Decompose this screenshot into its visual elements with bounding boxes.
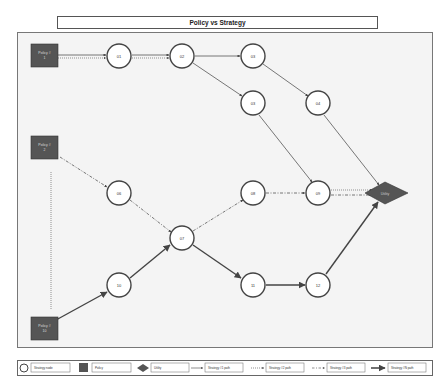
svg-text:12: 12 [316, 283, 321, 288]
legend [17, 360, 433, 376]
svg-text:02: 02 [180, 54, 185, 59]
svg-text:09: 09 [316, 191, 321, 196]
node-04: 04 [306, 91, 330, 115]
node-10: 10 [107, 273, 131, 297]
node-06: 06 [107, 181, 131, 205]
svg-text:Policy #: Policy # [38, 51, 50, 55]
svg-text:01: 01 [117, 54, 122, 59]
svg-text:2: 2 [44, 148, 46, 152]
svg-text:10: 10 [43, 329, 47, 333]
node-02: 02 [170, 44, 194, 68]
node-05: 03 [241, 91, 265, 115]
node-08: 08 [241, 181, 265, 205]
svg-text:03: 03 [251, 54, 256, 59]
diagram-graph: Policy # 1 Policy # 2 Policy # 10 01 02 … [0, 0, 446, 391]
policy-1: Policy # 1 [31, 44, 58, 67]
node-12: 12 [306, 273, 330, 297]
strategy-n-path [56, 202, 378, 320]
svg-text:06: 06 [117, 191, 122, 196]
node-01: 01 [107, 44, 131, 68]
strategy-nodes: 01 02 03 03 04 06 07 08 09 10 11 12 [107, 44, 330, 297]
policy-2: Policy # 2 [31, 136, 58, 159]
node-07: 07 [170, 226, 194, 250]
policy-10: Policy # 10 [31, 317, 58, 340]
svg-text:Utility: Utility [381, 192, 390, 196]
utility-node: Utility [365, 182, 408, 204]
strategy-1-path [58, 55, 379, 185]
node-11: 11 [241, 273, 265, 297]
svg-text:1: 1 [44, 56, 46, 60]
svg-text:03: 03 [251, 101, 256, 106]
svg-text:10: 10 [117, 283, 122, 288]
svg-text:Policy #: Policy # [38, 324, 50, 328]
svg-text:Policy #: Policy # [38, 143, 50, 147]
node-03: 03 [241, 44, 265, 68]
svg-text:04: 04 [316, 101, 321, 106]
svg-text:07: 07 [180, 236, 185, 241]
node-09: 09 [306, 181, 330, 205]
svg-text:08: 08 [251, 191, 256, 196]
